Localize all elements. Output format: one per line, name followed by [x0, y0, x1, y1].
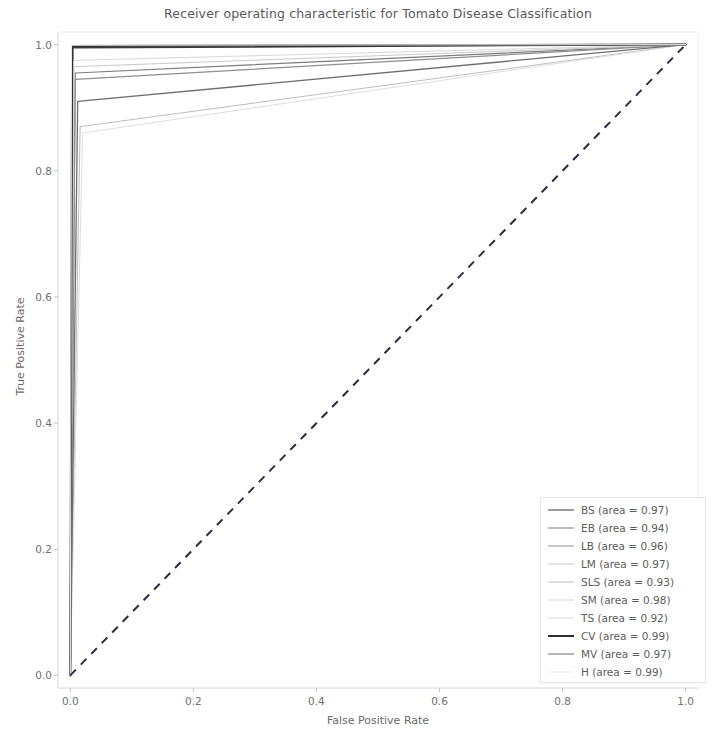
- legend-item-bs[interactable]: BS (area = 0.97): [541, 501, 707, 519]
- legend-swatch-cv-icon: [548, 631, 574, 641]
- legend-label-bs: BS (area = 0.97): [581, 504, 668, 516]
- legend-item-eb[interactable]: EB (area = 0.94): [541, 519, 707, 537]
- legend: BS (area = 0.97)EB (area = 0.94)LB (area…: [540, 497, 706, 683]
- legend-item-sls[interactable]: SLS (area = 0.93): [541, 573, 707, 591]
- y-tick-label-5: 1.0: [18, 39, 52, 51]
- legend-label-sm: SM (area = 0.98): [581, 594, 671, 606]
- legend-swatch-eb-icon: [548, 523, 574, 533]
- legend-label-eb: EB (area = 0.94): [581, 522, 669, 534]
- x-tick-label-5: 1.0: [677, 695, 694, 707]
- legend-swatch-ts-icon: [548, 613, 574, 623]
- legend-label-cv: CV (area = 0.99): [581, 630, 669, 642]
- x-tick-label-4: 0.8: [554, 695, 571, 707]
- y-tick-label-2: 0.4: [18, 417, 52, 429]
- legend-swatch-mv-icon: [548, 649, 574, 659]
- legend-item-lm[interactable]: LM (area = 0.97): [541, 555, 707, 573]
- legend-item-ts[interactable]: TS (area = 0.92): [541, 609, 707, 627]
- legend-swatch-sm-icon: [548, 595, 574, 605]
- legend-label-sls: SLS (area = 0.93): [581, 576, 674, 588]
- x-tick-label-1: 0.2: [185, 695, 202, 707]
- y-tick-label-1: 0.2: [18, 543, 52, 555]
- legend-swatch-h-icon: [548, 667, 574, 677]
- x-tick-label-2: 0.4: [308, 695, 325, 707]
- legend-label-lm: LM (area = 0.97): [581, 558, 670, 570]
- legend-item-sm[interactable]: SM (area = 0.98): [541, 591, 707, 609]
- legend-label-mv: MV (area = 0.97): [581, 648, 671, 660]
- legend-label-ts: TS (area = 0.92): [581, 612, 668, 624]
- legend-swatch-sls-icon: [548, 577, 574, 587]
- x-tick-label-0: 0.0: [62, 695, 79, 707]
- x-axis-label: False Positive Rate: [58, 714, 698, 727]
- legend-label-lb: LB (area = 0.96): [581, 540, 668, 552]
- roc-chart-figure: Receiver operating characteristic for To…: [0, 0, 715, 736]
- legend-label-h: H (area = 0.99): [581, 666, 663, 678]
- legend-swatch-lb-icon: [548, 541, 574, 551]
- legend-item-lb[interactable]: LB (area = 0.96): [541, 537, 707, 555]
- legend-swatch-bs-icon: [548, 505, 574, 515]
- legend-item-h[interactable]: H (area = 0.99): [541, 663, 707, 681]
- x-tick-label-3: 0.6: [431, 695, 448, 707]
- legend-item-cv[interactable]: CV (area = 0.99): [541, 627, 707, 645]
- y-axis-label: True Positive Rate: [14, 287, 27, 407]
- legend-swatch-lm-icon: [548, 559, 574, 569]
- y-tick-label-0: 0.0: [18, 669, 52, 681]
- y-tick-label-4: 0.8: [18, 165, 52, 177]
- legend-item-mv[interactable]: MV (area = 0.97): [541, 645, 707, 663]
